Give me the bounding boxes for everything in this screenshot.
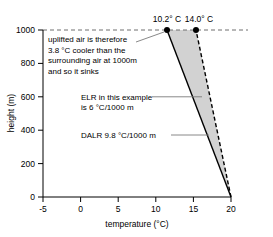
point-label-dalr-temp: 10.2° C bbox=[153, 14, 181, 24]
uplift-note-line-3: surrounding air at 1000m bbox=[48, 56, 137, 65]
y-axis-title: height (m) bbox=[6, 94, 16, 132]
data-point-dalr-1000m bbox=[164, 27, 170, 33]
data-point-elr-1000m bbox=[193, 27, 199, 33]
uplift-note-line-4: and so it sinks bbox=[48, 67, 99, 76]
uplift-note-line-2: 3.8 °C cooler than the bbox=[48, 46, 126, 55]
uplift-note-leader bbox=[136, 32, 164, 42]
y-tick-label-800: 800 bbox=[21, 58, 35, 68]
x-axis-title: temperature (°C) bbox=[105, 219, 169, 229]
y-tick-marks bbox=[38, 30, 43, 197]
chart-figure: 0 200 400 600 800 1000 -5 0 5 10 15 20 t… bbox=[0, 0, 273, 237]
x-tick-label-20: 20 bbox=[226, 204, 236, 214]
y-tick-label-1000: 1000 bbox=[16, 25, 35, 35]
x-tick-label-0: 0 bbox=[78, 204, 83, 214]
y-tick-label-400: 400 bbox=[21, 125, 35, 135]
lapse-rate-chart: 0 200 400 600 800 1000 -5 0 5 10 15 20 t… bbox=[0, 0, 273, 237]
dalr-note-line-1: DALR 9.8 °C/1000 m bbox=[81, 131, 156, 140]
elr-note-line-1: ELR in this example bbox=[81, 93, 153, 102]
elr-note-line-2: is 6 °C/1000 m bbox=[81, 103, 134, 112]
x-tick-label-10: 10 bbox=[151, 204, 161, 214]
y-tick-label-200: 200 bbox=[21, 159, 35, 169]
point-label-elr-temp: 14.0° C bbox=[185, 14, 213, 24]
uplift-note-line-1: uplifted air is therefore bbox=[48, 35, 128, 44]
x-tick-marks bbox=[43, 197, 231, 202]
x-tick-label-minus5: -5 bbox=[39, 204, 47, 214]
x-tick-label-15: 15 bbox=[189, 204, 199, 214]
x-tick-label-5: 5 bbox=[116, 204, 121, 214]
y-tick-label-600: 600 bbox=[21, 92, 35, 102]
y-tick-label-0: 0 bbox=[30, 192, 35, 202]
